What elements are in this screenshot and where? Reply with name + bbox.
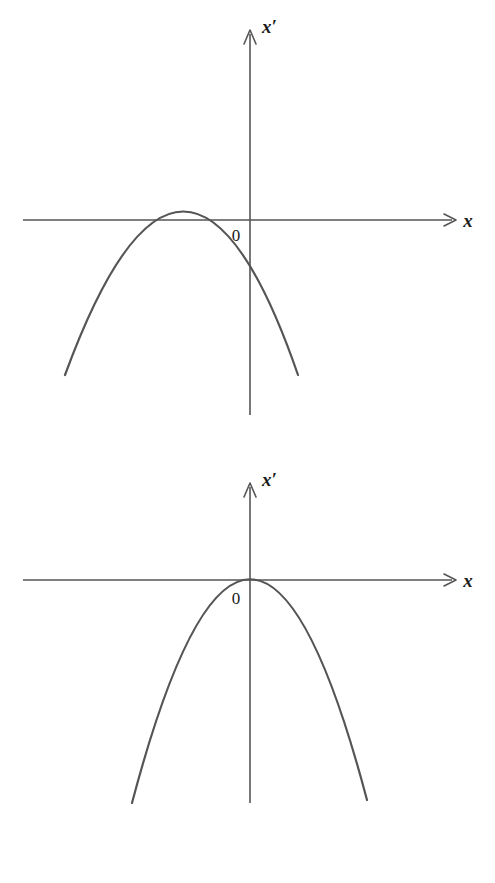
figure-root: x x′ 0 x x′ 0 [0,0,495,883]
x-axis-label-bottom: x [462,570,473,591]
y-axis-label-bottom: x′ [261,469,277,490]
lower-parabola-svg: x x′ 0 [0,441,495,883]
x-axis-label-top: x [462,210,473,231]
origin-label-top: 0 [232,226,241,245]
y-axis-label-top: x′ [261,16,277,37]
origin-label-bottom: 0 [232,589,241,608]
lower-parabola-panel: x x′ 0 [0,441,495,883]
parabola-curve-top [65,212,298,376]
upper-parabola-panel: x x′ 0 [0,0,495,441]
upper-parabola-svg: x x′ 0 [0,0,495,441]
